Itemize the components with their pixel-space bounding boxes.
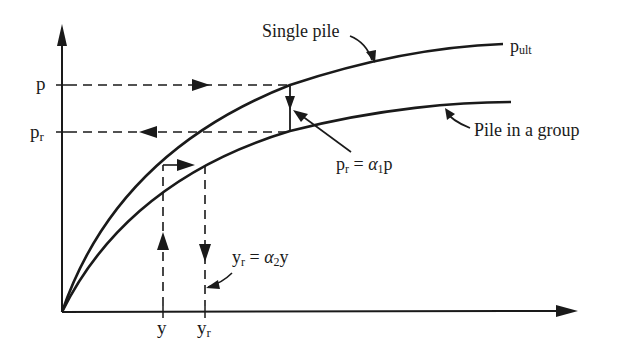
x-axis [62, 305, 578, 317]
p-y-curve-diagram: Single pile pult Pile in a group p pr y … [0, 0, 622, 351]
x-axis-arrow-icon [556, 305, 578, 317]
axis-label-yr: yr [197, 317, 212, 340]
leader-yr-eq-arrow-icon [206, 280, 220, 289]
p-ult-label: pult [510, 36, 532, 57]
arrow-down-reduction-icon [285, 96, 295, 110]
y-axis [57, 24, 67, 312]
axis-label-y: y [157, 317, 167, 338]
arrow-up-icon [157, 232, 169, 250]
leader-single-pile [350, 36, 372, 60]
arrow-left-icon [139, 126, 157, 138]
pile-in-group-label: Pile in a group [474, 120, 580, 140]
leader-pr-eq-arrow-icon [293, 110, 308, 122]
arrow-right-icon [192, 79, 210, 91]
group-pile-curve [62, 102, 511, 312]
equation-pr: pr = α1p [336, 154, 393, 176]
axis-label-pr: pr [30, 121, 45, 144]
arrow-down-icon [199, 244, 211, 262]
single-pile-label: Single pile [262, 21, 340, 41]
y-axis-arrow-icon [57, 24, 67, 46]
equation-yr: yr = α2y [232, 247, 289, 269]
axis-label-p: p [36, 73, 46, 94]
